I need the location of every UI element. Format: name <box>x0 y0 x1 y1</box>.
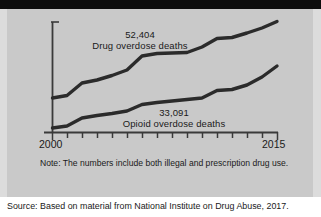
top-dark-band <box>0 0 321 9</box>
x-tick-label-start: 2000 <box>39 138 62 150</box>
drug-overdose-label: Drug overdose deaths <box>65 40 215 51</box>
opioid-overdose-annotation: 33,091 Opioid overdose deaths <box>99 107 249 129</box>
chart-panel: 52,404 Drug overdose deaths 33,091 Opioi… <box>0 9 321 197</box>
opioid-overdose-label: Opioid overdose deaths <box>99 118 249 129</box>
chart-note: Note: The numbers include both illegal a… <box>40 157 290 169</box>
drug-overdose-value: 52,404 <box>65 29 215 40</box>
x-tick-label-end: 2015 <box>262 138 285 150</box>
opioid-overdose-value: 33,091 <box>99 107 249 118</box>
figure-area: 52,404 Drug overdose deaths 33,091 Opioi… <box>7 9 313 197</box>
drug-overdose-annotation: 52,404 Drug overdose deaths <box>65 29 215 51</box>
source-caption: Source: Based on material from National … <box>7 201 317 213</box>
